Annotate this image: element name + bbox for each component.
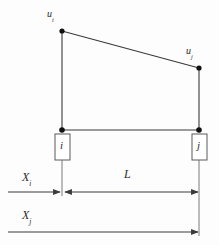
label-u-i: ui <box>47 9 54 19</box>
node-dot-top-j <box>196 65 201 70</box>
diagram-svg <box>0 0 219 245</box>
label-L: L <box>124 168 131 180</box>
label-node-j: j <box>197 140 200 151</box>
node-dot-top-i <box>59 28 64 33</box>
node-dot-i <box>59 127 65 133</box>
figure-canvas: ui uj Xi Xj L i j <box>0 0 219 245</box>
label-u-j: uj <box>186 46 193 56</box>
label-X-j: Xj <box>22 209 31 221</box>
label-u-i-sub: i <box>52 16 54 23</box>
label-X-i: Xi <box>22 171 31 183</box>
label-u-j-sub: j <box>191 53 193 60</box>
label-node-i: i <box>60 140 63 151</box>
member-top-diagonal <box>62 31 199 68</box>
node-dot-j <box>196 127 202 133</box>
